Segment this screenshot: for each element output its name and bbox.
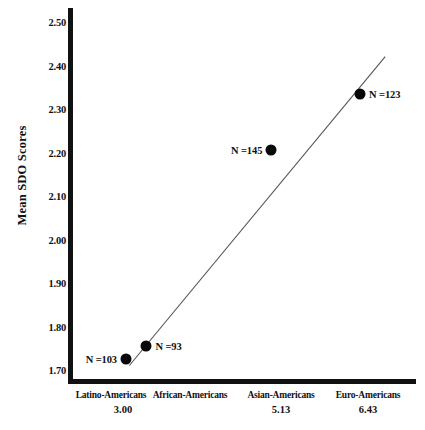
data-point-label: N =103 <box>86 353 117 364</box>
x-axis-line <box>68 379 416 384</box>
y-axis-tick-labels: 2.502.402.302.202.102.001.901.801.70 <box>22 0 66 430</box>
y-axis-line <box>68 8 73 384</box>
data-point-african-americans <box>141 340 152 351</box>
data-point-label: N =123 <box>369 88 400 99</box>
y-tick-label: 1.80 <box>26 322 66 333</box>
x-category-label: Asian-Americans <box>247 390 314 400</box>
y-tick-label: 2.50 <box>26 17 66 28</box>
y-tick-label: 2.20 <box>26 148 66 159</box>
y-tick-label: 2.30 <box>26 104 66 115</box>
x-category-value: 5.13 <box>272 404 290 415</box>
data-point-latino-americans <box>121 353 132 364</box>
chart-figure: Mean SDO Scores 2.502.402.302.202.102.00… <box>0 0 425 430</box>
x-category-label: Latino-Americans <box>76 390 147 400</box>
y-tick-label: 1.90 <box>26 278 66 289</box>
x-category-value: 6.43 <box>359 404 377 415</box>
data-point-label: N =145 <box>231 145 262 156</box>
x-category-label: Euro-Americans <box>336 390 401 400</box>
x-category-value: 3.00 <box>114 404 132 415</box>
data-point-asian-americans <box>266 145 277 156</box>
y-tick-label: 1.70 <box>26 365 66 376</box>
data-point-label: N =93 <box>155 340 181 351</box>
y-tick-label: 2.10 <box>26 191 66 202</box>
data-point-euro-americans <box>355 88 366 99</box>
trend-line <box>129 57 385 366</box>
y-tick-label: 2.00 <box>26 235 66 246</box>
y-tick-label: 2.40 <box>26 61 66 72</box>
x-category-label: African-Americans <box>153 390 228 400</box>
